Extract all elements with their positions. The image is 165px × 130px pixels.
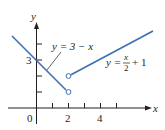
y-ticks bbox=[37, 44, 43, 92]
open-endpoint-left bbox=[66, 90, 71, 95]
right-equation-prefix: y = bbox=[105, 56, 121, 68]
piecewise-function-graph: y x 0 2 4 3 y = 3 − x y = x 2 + 1 bbox=[0, 0, 165, 130]
left-equation-leader bbox=[47, 52, 61, 70]
line-y-equals-x-over-2-plus-1 bbox=[71, 31, 153, 75]
open-endpoint-right bbox=[66, 74, 71, 79]
origin-label: 0 bbox=[27, 112, 33, 124]
right-equation-suffix: + 1 bbox=[132, 56, 146, 68]
y-axis-label: y bbox=[30, 10, 36, 22]
x-tick-label-4: 4 bbox=[97, 112, 103, 124]
x-tick-label-2: 2 bbox=[65, 112, 71, 124]
right-equation-denominator: 2 bbox=[124, 63, 129, 73]
right-equation-numerator: x bbox=[123, 52, 128, 62]
x-axis-label: x bbox=[152, 102, 158, 114]
x-ticks bbox=[53, 103, 117, 108]
y-axis-arrow-icon bbox=[34, 22, 39, 29]
x-axis-arrow-icon bbox=[145, 106, 152, 111]
left-equation-label: y = 3 − x bbox=[51, 40, 93, 52]
